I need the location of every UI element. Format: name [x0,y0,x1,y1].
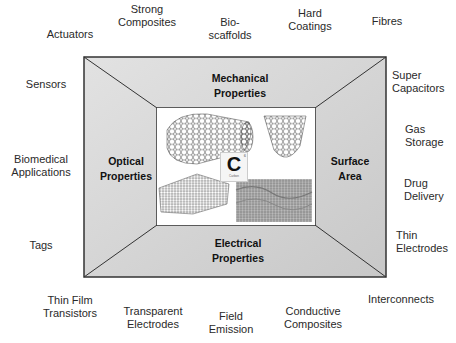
label-line: Storage [405,136,455,149]
carbon-element-tile: 6 C Carbon [220,152,248,182]
app-thin-film-transistors: Thin Film Transistors [38,294,102,320]
label-line: scaffolds [200,29,260,42]
label-line: Thin [396,229,456,242]
graphene-sheet-icon [236,179,312,222]
carbon-nanomaterials-image: 6 C Carbon [157,108,315,225]
app-hard-coatings: Hard Coatings [280,7,340,33]
label-line: Biomedical [4,153,78,166]
label-line: Properties [198,251,278,266]
label-line: Delivery [404,190,454,203]
app-strong-composites: Strong Composites [112,3,182,29]
label-line: Actuators [40,28,100,41]
app-bio-scaffolds: Bio- scaffolds [200,16,260,42]
label-line: Coatings [280,20,340,33]
electrical-properties-label: Electrical Properties [198,236,278,266]
app-drug-delivery: Drug Delivery [404,177,454,203]
label-line: Interconnects [366,293,436,306]
label-line: Super [392,69,452,82]
optical-properties-label: Optical Properties [96,154,156,184]
app-transparent-electrodes: Transparent Electrodes [118,305,188,331]
app-thin-electrodes: Thin Electrodes [396,229,456,255]
label-line: Area [322,169,378,184]
nanotube-end-icon [264,116,306,157]
app-interconnects: Interconnects [366,293,436,306]
element-name: Carbon [221,174,247,178]
mechanical-properties-label: Mechanical Properties [200,71,280,101]
label-line: Mechanical [200,71,280,86]
label-line: Composites [112,16,182,29]
label-line: Sensors [16,78,76,91]
label-line: Bio- [200,16,260,29]
app-gas-storage: Gas Storage [405,123,455,149]
label-line: Optical [96,154,156,169]
atomic-number: 6 [244,153,246,158]
app-super-capacitors: Super Capacitors [392,69,452,95]
label-line: Properties [96,169,156,184]
label-line: Applications [4,166,78,179]
label-line: Thin Film [38,294,102,307]
app-conductive-composites: Conductive Composites [278,305,348,331]
nanotube-bundle-icon [159,174,229,214]
label-line: Composites [278,318,348,331]
label-line: Transparent [118,305,188,318]
label-line: Tags [16,239,66,252]
label-line: Capacitors [392,82,452,95]
label-line: Emission [206,323,256,336]
app-fibres: Fibres [362,15,412,28]
label-line: Gas [405,123,455,136]
label-line: Strong [112,3,182,16]
label-line: Hard [280,7,340,20]
label-line: Electrodes [396,242,456,255]
app-actuators: Actuators [40,28,100,41]
app-sensors: Sensors [16,78,76,91]
label-line: Electrodes [118,318,188,331]
app-biomedical-applications: Biomedical Applications [4,153,78,179]
label-line: Surface [322,154,378,169]
app-field-emission: Field Emission [206,310,256,336]
label-line: Properties [200,86,280,101]
label-line: Transistors [38,307,102,320]
surface-area-label: Surface Area [322,154,378,184]
label-line: Fibres [362,15,412,28]
label-line: Electrical [198,236,278,251]
label-line: Field [206,310,256,323]
app-tags: Tags [16,239,66,252]
label-line: Conductive [278,305,348,318]
label-line: Drug [404,177,454,190]
